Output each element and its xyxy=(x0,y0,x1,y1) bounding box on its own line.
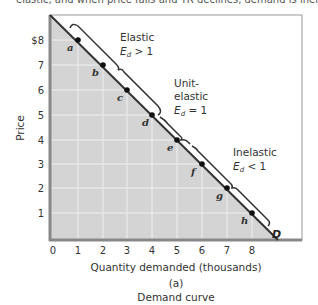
label-point-h: h xyxy=(241,215,248,226)
point-a xyxy=(75,37,81,43)
svg-text:6: 6 xyxy=(38,85,44,96)
svg-text:1: 1 xyxy=(38,208,44,219)
svg-text:4: 4 xyxy=(38,135,44,146)
point-d xyxy=(149,112,155,118)
x-tick-labels: 0 1 2 3 4 5 6 7 8 xyxy=(50,245,255,256)
svg-text:2: 2 xyxy=(100,245,106,256)
label-point-c: c xyxy=(117,92,123,103)
svg-text:$8: $8 xyxy=(31,35,44,46)
annotation-inelastic-sub: Ed < 1 xyxy=(233,160,266,174)
svg-text:4: 4 xyxy=(149,245,155,256)
point-c xyxy=(124,87,130,93)
label-point-e: e xyxy=(167,142,173,153)
demand-chart: a b c d e f g h D Elastic Ed > 1 Unit- e… xyxy=(0,0,318,305)
y-axis-label: Price xyxy=(14,115,26,141)
curve-label-d: D xyxy=(272,228,281,241)
annotation-inelastic-title: Inelastic xyxy=(233,146,277,158)
label-point-d: d xyxy=(142,117,149,128)
y-tick-labels: $8 7 6 5 4 3 2 1 xyxy=(31,35,44,219)
label-point-b: b xyxy=(92,67,99,78)
annotation-unit-title-2: elastic xyxy=(174,90,208,102)
svg-text:6: 6 xyxy=(199,245,205,256)
svg-text:5: 5 xyxy=(38,110,44,121)
x-axis-label: Quantity demanded (thousands) xyxy=(90,261,261,273)
point-f xyxy=(199,161,205,167)
annotation-elastic-sub: Ed > 1 xyxy=(120,45,153,59)
annotation-unit-sub: Ed = 1 xyxy=(174,104,207,118)
annotation-elastic-title: Elastic xyxy=(120,31,154,43)
panel-label: (a) xyxy=(169,277,184,289)
point-b xyxy=(100,62,106,68)
annotation-unit-title-1: Unit- xyxy=(174,77,199,89)
chart-title: Demand curve xyxy=(137,291,214,303)
svg-text:8: 8 xyxy=(249,245,255,256)
svg-text:3: 3 xyxy=(38,159,44,170)
svg-text:1: 1 xyxy=(75,245,81,256)
svg-text:2: 2 xyxy=(38,183,44,194)
point-g xyxy=(224,185,230,191)
label-point-g: g xyxy=(216,190,223,201)
svg-text:5: 5 xyxy=(174,245,180,256)
point-h xyxy=(249,210,255,216)
svg-text:7: 7 xyxy=(38,60,44,71)
point-e xyxy=(174,137,180,143)
svg-text:7: 7 xyxy=(224,245,230,256)
svg-text:0: 0 xyxy=(50,245,56,256)
svg-text:3: 3 xyxy=(124,245,130,256)
label-point-a: a xyxy=(67,42,73,53)
